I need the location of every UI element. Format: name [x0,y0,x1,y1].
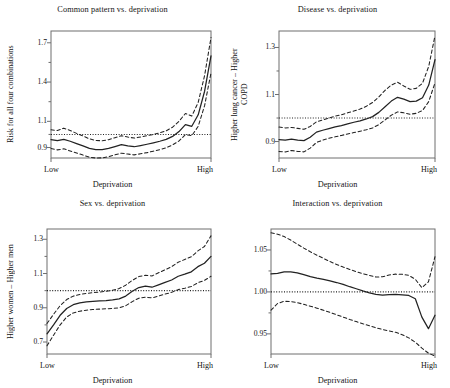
plot-frame [51,31,211,158]
series-estimate [51,56,211,150]
series-estimate [279,60,435,141]
chart-panel-1: Common pattern vs. deprivationRisk for a… [0,0,225,194]
chart-panel-3: Sex vs. deprivationHigher women – Higher… [0,194,225,388]
series-estimate [47,256,211,333]
plot-frame [47,229,211,354]
series-upper_ci [279,36,435,130]
figure-panel-grid: Common pattern vs. deprivationRisk for a… [0,0,450,388]
plot-frame [279,31,435,158]
series-upper_ci [47,236,211,324]
chart-panel-2: Disease vs. deprivationHigher lung cance… [225,0,450,194]
series-lower_ci [271,301,435,356]
plot-frame [271,229,435,354]
plot-area [0,194,225,388]
series-lower_ci [279,83,435,152]
plot-area [0,0,225,194]
series-lower_ci [47,276,211,346]
plot-area [225,0,450,194]
series-lower_ci [51,73,211,158]
series-upper_ci [271,233,435,288]
chart-panel-4: Interaction vs. deprivation0.951.001.05L… [225,194,450,388]
series-estimate [271,272,435,329]
plot-area [225,194,450,388]
